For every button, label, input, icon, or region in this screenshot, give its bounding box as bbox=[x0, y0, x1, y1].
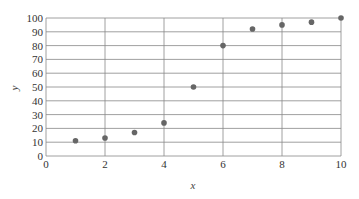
x-axis-label: x bbox=[190, 179, 196, 191]
data-point bbox=[220, 43, 226, 49]
y-tick-label: 80 bbox=[32, 40, 44, 52]
data-point bbox=[338, 15, 344, 21]
y-tick-label: 10 bbox=[32, 136, 44, 148]
y-tick-label: 70 bbox=[32, 53, 44, 65]
x-tick-label: 4 bbox=[161, 158, 167, 170]
scatter-chart: 0102030405060708090100 0246810 x y bbox=[0, 0, 359, 199]
y-tick-label: 50 bbox=[32, 81, 44, 93]
y-axis-ticks: 0102030405060708090100 bbox=[27, 12, 44, 162]
x-tick-label: 10 bbox=[336, 158, 348, 170]
x-axis-ticks: 0246810 bbox=[43, 158, 347, 170]
y-tick-label: 40 bbox=[32, 95, 44, 107]
y-tick-label: 20 bbox=[32, 122, 44, 134]
y-tick-label: 90 bbox=[32, 26, 44, 38]
y-axis-label: y bbox=[8, 85, 20, 91]
data-point bbox=[73, 138, 79, 144]
y-tick-label: 100 bbox=[27, 12, 44, 24]
x-tick-label: 2 bbox=[102, 158, 108, 170]
x-tick-label: 0 bbox=[43, 158, 49, 170]
data-point bbox=[132, 130, 138, 136]
data-point bbox=[250, 26, 256, 32]
data-point bbox=[102, 135, 108, 141]
data-points bbox=[73, 15, 344, 143]
y-tick-label: 30 bbox=[32, 109, 44, 121]
x-tick-label: 8 bbox=[279, 158, 285, 170]
data-point bbox=[161, 120, 167, 126]
x-tick-label: 6 bbox=[220, 158, 226, 170]
data-point bbox=[279, 22, 285, 28]
y-tick-label: 60 bbox=[32, 67, 44, 79]
data-point bbox=[309, 19, 315, 25]
data-point bbox=[191, 84, 197, 90]
